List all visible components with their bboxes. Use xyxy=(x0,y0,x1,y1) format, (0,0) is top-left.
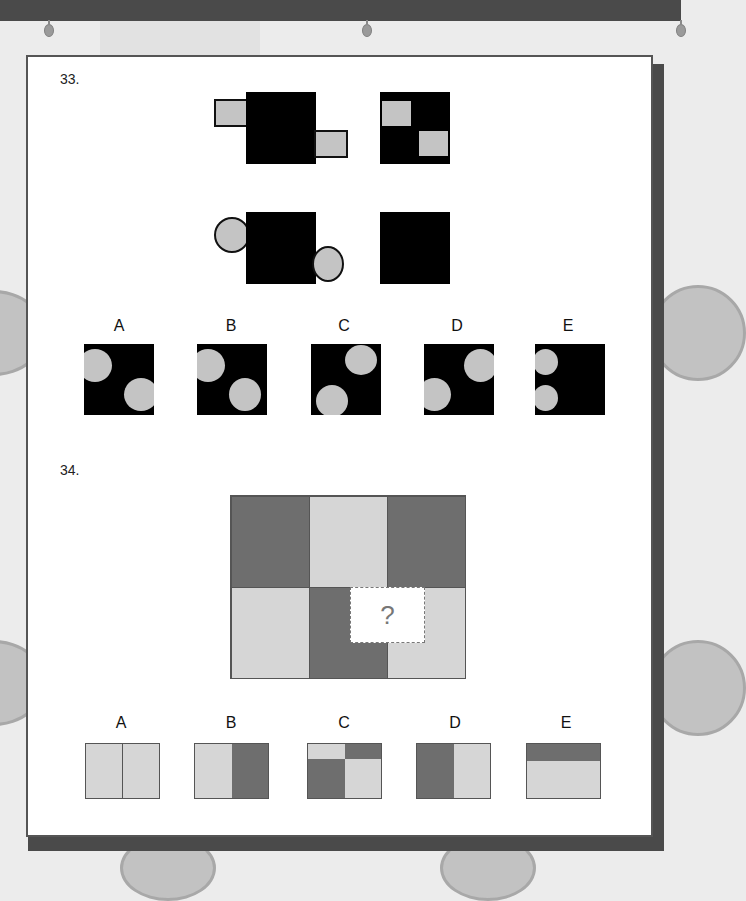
light-tile xyxy=(454,744,491,799)
grey-rectangle xyxy=(314,130,348,158)
q34-option-d[interactable] xyxy=(416,743,491,799)
light-tile xyxy=(195,744,232,799)
top-bar xyxy=(0,0,681,21)
q33-option-d[interactable] xyxy=(424,344,494,415)
grey-circle xyxy=(535,349,558,375)
black-square xyxy=(246,212,316,284)
q34-option-a[interactable] xyxy=(85,743,160,799)
missing-piece: ? xyxy=(350,587,425,643)
light-tile xyxy=(345,759,382,799)
grey-circle xyxy=(424,378,451,411)
option-label-e: E xyxy=(548,317,588,335)
light-tile xyxy=(527,761,601,799)
decorative-illustration xyxy=(650,285,746,381)
q33-option-c[interactable] xyxy=(311,344,381,415)
black-square xyxy=(246,92,316,164)
light-tile xyxy=(231,587,310,679)
option-label-b: B xyxy=(211,317,251,335)
grey-rectangle xyxy=(214,99,248,127)
pin-icon xyxy=(362,24,372,37)
q34-option-c[interactable] xyxy=(307,743,382,799)
option-label-b: B xyxy=(211,714,251,732)
option-label-a: A xyxy=(101,714,141,732)
black-square-answer xyxy=(380,212,450,284)
question-mark: ? xyxy=(380,600,394,631)
option-label-e: E xyxy=(546,714,586,732)
dark-tile xyxy=(232,744,269,799)
light-tile xyxy=(123,744,160,799)
dark-tile xyxy=(231,496,310,588)
black-square xyxy=(380,92,450,164)
dark-tile xyxy=(308,759,345,799)
grey-circle xyxy=(312,246,344,282)
q34-option-b[interactable] xyxy=(194,743,269,799)
worksheet-page: 33. A B C D E 34. xyxy=(26,55,653,837)
q34-pattern-grid: ? xyxy=(230,495,466,679)
grey-circle xyxy=(229,378,261,411)
dark-tile xyxy=(527,744,601,761)
option-label-c: C xyxy=(324,714,364,732)
grey-circle xyxy=(316,385,348,415)
option-label-d: D xyxy=(437,317,477,335)
q33-option-b[interactable] xyxy=(197,344,267,415)
q33-option-a[interactable] xyxy=(84,344,154,415)
grey-circle xyxy=(214,217,250,253)
dark-tile xyxy=(387,496,466,588)
decorative-illustration xyxy=(650,640,746,736)
option-label-d: D xyxy=(435,714,475,732)
light-tile xyxy=(308,744,345,759)
grey-circle xyxy=(345,345,377,375)
dark-tile xyxy=(417,744,454,799)
grey-circle xyxy=(84,349,112,382)
q34-option-e[interactable] xyxy=(526,743,601,799)
grey-square xyxy=(419,131,448,156)
light-tile xyxy=(86,744,123,799)
grey-circle xyxy=(124,378,154,411)
question-number: 33. xyxy=(60,71,79,87)
q33-option-e[interactable] xyxy=(535,344,605,415)
pin-icon xyxy=(676,24,686,37)
dark-tile xyxy=(345,744,382,759)
grey-circle xyxy=(535,385,558,411)
option-label-a: A xyxy=(99,317,139,335)
grey-square xyxy=(382,101,411,126)
grey-circle xyxy=(464,349,494,382)
light-tile xyxy=(309,496,388,588)
grey-circle xyxy=(197,349,225,382)
option-label-c: C xyxy=(324,317,364,335)
question-number: 34. xyxy=(60,462,79,478)
pin-icon xyxy=(44,24,54,37)
